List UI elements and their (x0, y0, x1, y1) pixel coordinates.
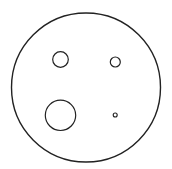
background (0, 0, 172, 169)
circles-diagram (0, 0, 172, 169)
